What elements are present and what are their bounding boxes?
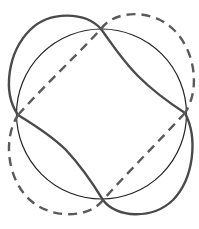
dashed-outer-arc-upper-right [101,14,194,113]
solid-curve [9,16,192,215]
solid-inner-stroke-lower-left [18,115,103,200]
dashed-inner-stroke-upper-left [18,29,101,115]
diagram-canvas [0,0,199,229]
solid-outer-arc-lower-right [103,113,192,214]
dashed-outer-arc-lower-left [9,115,103,214]
dashed-curve [9,14,194,214]
diagram-figure [0,0,199,229]
solid-inner-stroke-upper-right [101,29,185,113]
reference-circle [17,29,187,199]
